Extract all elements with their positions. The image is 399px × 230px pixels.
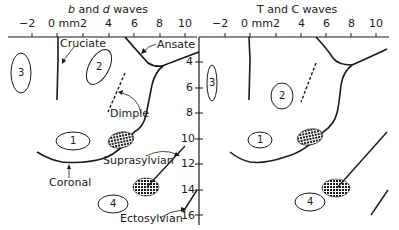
hatched-focus-upper (107, 129, 136, 150)
dimple-dashed-line-right (301, 63, 316, 102)
y-tick-label: 14 (181, 184, 195, 195)
ectosylvian-label: Ectosylvian (120, 213, 183, 224)
region-1-label-right: 1 (257, 135, 263, 145)
cruciate-sulcus-right (249, 37, 250, 100)
left-panel-title: b and d waves (68, 4, 148, 15)
hatched-focus-upper-right (296, 126, 325, 147)
lateral-sulcus-right (323, 65, 352, 132)
x-tick-label: 4 (298, 18, 305, 29)
left-panel (8, 33, 199, 218)
x-tick-label: 2 (80, 18, 87, 29)
dimple-label: Dimple (110, 108, 149, 119)
x-tick-label: −2 (19, 18, 35, 29)
region-3-label-right: 3 (209, 78, 215, 88)
title-and: and (75, 3, 103, 16)
x-tick-label: 6 (131, 18, 138, 29)
hatched-focus-lower (133, 178, 159, 196)
region-3-label: 3 (18, 68, 24, 78)
x-tick-label: −2 (212, 18, 228, 29)
title-d: d (103, 3, 110, 16)
y-tick-label: 12 (181, 158, 195, 169)
ectosylvian-sulcus-right (371, 190, 388, 215)
cruciate-label: Cruciate (60, 38, 106, 49)
dimple-arrowhead (118, 90, 123, 95)
title-b: b (68, 3, 75, 16)
region-2-label-right: 2 (279, 91, 285, 101)
suprasylvian-sulcus-right (337, 132, 387, 188)
x-tick-label: 4 (105, 18, 112, 29)
coronal-label: Coronal (49, 177, 91, 188)
lateral-sulcus (134, 66, 163, 132)
region-2-label: 2 (96, 62, 102, 72)
x-tick-label: 10 (178, 18, 192, 29)
ansate-label: Ansate (157, 39, 195, 50)
cruciate-sulcus (57, 37, 58, 100)
x-tick-label: 8 (156, 18, 163, 29)
y-tick-label: 16 (181, 210, 195, 221)
x-tick-label: 10 (369, 18, 383, 29)
cortex-map-figure (0, 0, 399, 230)
y-axis (195, 37, 203, 225)
y-tick-label: 8 (186, 107, 193, 118)
y-tick-label: 10 (181, 133, 195, 144)
region-4-label-right: 4 (307, 197, 313, 207)
y-tick-label: 6 (186, 82, 193, 93)
suprasylvian-label: Suprasylvian (103, 155, 174, 166)
hatched-focus-lower-right (322, 179, 350, 197)
y-tick-label: 4 (186, 56, 193, 67)
x-tick-label: 6 (323, 18, 330, 29)
right-panel-title: T and C waves (257, 4, 337, 15)
title-waves: waves (110, 3, 148, 16)
region-1-label: 1 (70, 136, 76, 146)
x-tick-label: 2 (273, 18, 280, 29)
right-panel (199, 33, 389, 215)
region-4-label: 4 (110, 199, 116, 209)
x-tick-label: 0 mm (48, 18, 80, 29)
cruciate-arrowhead (62, 58, 66, 64)
x-tick-label: 0 mm (241, 18, 273, 29)
ansate-sulcus-right (316, 37, 387, 65)
coronal-arrowhead (67, 164, 71, 169)
x-tick-label: 8 (348, 18, 355, 29)
